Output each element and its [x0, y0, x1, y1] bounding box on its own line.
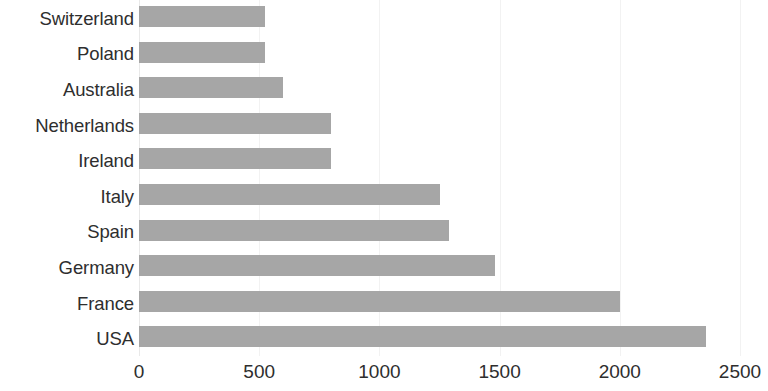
bar-ireland[interactable] — [139, 148, 331, 169]
gridline-2500 — [740, 0, 741, 356]
bar-poland[interactable] — [139, 42, 265, 63]
bar-switzerland[interactable] — [139, 6, 265, 27]
category-label-poland: Poland — [0, 43, 134, 64]
plot-area — [139, 0, 740, 356]
x-tick-label-500: 500 — [243, 360, 275, 384]
bar-italy[interactable] — [139, 184, 440, 205]
bar-row — [139, 320, 740, 356]
bar-row — [139, 0, 740, 36]
x-tick-label-1500: 1500 — [478, 360, 520, 384]
category-label-netherlands: Netherlands — [0, 115, 134, 136]
bar-france[interactable] — [139, 291, 620, 312]
category-label-switzerland: Switzerland — [0, 8, 134, 29]
bar-netherlands[interactable] — [139, 113, 331, 134]
bar-row — [139, 214, 740, 250]
bar-row — [139, 71, 740, 107]
bar-chart: SwitzerlandPolandAustraliaNetherlandsIre… — [0, 0, 768, 391]
category-label-usa: USA — [0, 328, 134, 349]
x-tick-label-2500: 2500 — [719, 360, 761, 384]
category-axis: SwitzerlandPolandAustraliaNetherlandsIre… — [0, 0, 134, 356]
category-label-france: France — [0, 293, 134, 314]
x-tick-label-2000: 2000 — [599, 360, 641, 384]
bar-row — [139, 142, 740, 178]
x-tick-label-0: 0 — [134, 360, 145, 384]
bar-germany[interactable] — [139, 255, 495, 276]
bar-row — [139, 36, 740, 72]
category-label-ireland: Ireland — [0, 150, 134, 171]
bar-australia[interactable] — [139, 77, 283, 98]
category-label-australia: Australia — [0, 79, 134, 100]
category-label-germany: Germany — [0, 257, 134, 278]
x-tick-label-1000: 1000 — [358, 360, 400, 384]
bar-usa[interactable] — [139, 326, 706, 347]
category-label-spain: Spain — [0, 221, 134, 242]
bar-row — [139, 285, 740, 321]
bar-row — [139, 178, 740, 214]
value-axis: 05001000150020002500 — [0, 356, 768, 391]
bar-spain[interactable] — [139, 220, 449, 241]
bar-row — [139, 249, 740, 285]
category-label-italy: Italy — [0, 186, 134, 207]
bar-row — [139, 107, 740, 143]
